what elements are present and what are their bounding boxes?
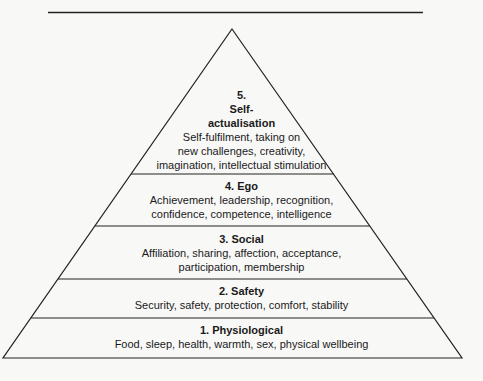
level-4-desc-line1: Achievement, leadership, recognition, bbox=[0, 193, 483, 207]
level-3-social: 3. Social Affiliation, sharing, affectio… bbox=[0, 232, 483, 274]
level-3-title: 3. Social bbox=[0, 232, 483, 246]
level-5-desc-line2: new challenges, creativity, bbox=[0, 144, 483, 158]
level-5-self-actualisation: 5. Self- actualisation Self-fulfilment, … bbox=[0, 88, 483, 172]
level-2-title: 2. Safety bbox=[0, 284, 483, 298]
level-3-desc-line1: Affiliation, sharing, affection, accepta… bbox=[0, 246, 483, 260]
level-4-desc-line2: confidence, competence, intelligence bbox=[0, 207, 483, 221]
maslow-pyramid-diagram: 5. Self- actualisation Self-fulfilment, … bbox=[0, 0, 483, 381]
level-5-number: 5. bbox=[0, 88, 483, 102]
level-2-safety: 2. Safety Security, safety, protection, … bbox=[0, 284, 483, 312]
level-4-ego: 4. Ego Achievement, leadership, recognit… bbox=[0, 179, 483, 221]
level-1-physiological: 1. Physiological Food, sleep, health, wa… bbox=[0, 323, 483, 351]
level-5-desc-line1: Self-fulfilment, taking on bbox=[0, 130, 483, 144]
level-3-desc-line2: participation, membership bbox=[0, 260, 483, 274]
level-5-title-line2: actualisation bbox=[0, 116, 483, 130]
level-1-title: 1. Physiological bbox=[0, 323, 483, 337]
level-4-title: 4. Ego bbox=[0, 179, 483, 193]
level-2-desc-line1: Security, safety, protection, comfort, s… bbox=[0, 298, 483, 312]
level-5-title-line1: Self- bbox=[0, 102, 483, 116]
level-5-desc-line3: imagination, intellectual stimulation bbox=[0, 158, 483, 172]
level-1-desc-line1: Food, sleep, health, warmth, sex, physic… bbox=[0, 337, 483, 351]
